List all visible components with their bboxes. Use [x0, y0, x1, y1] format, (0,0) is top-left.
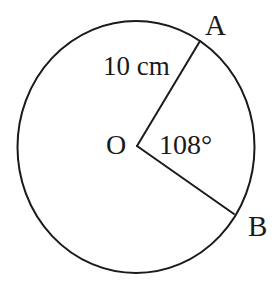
point-b-label: B	[248, 212, 267, 241]
circle-diagram	[0, 0, 280, 283]
center-label: O	[106, 131, 126, 159]
angle-label: 108°	[159, 131, 212, 159]
point-a-label: A	[205, 11, 226, 40]
radius-length-label: 10 cm	[103, 53, 170, 80]
